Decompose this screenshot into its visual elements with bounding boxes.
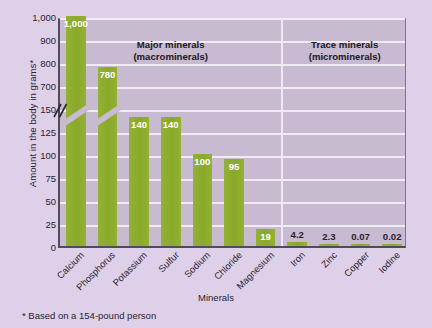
bar-rect: [193, 154, 213, 246]
bar-chloride[interactable]: 95: [224, 16, 244, 246]
bar-magnesium[interactable]: 19: [256, 16, 276, 246]
bar-rect: [129, 117, 149, 246]
bar-value-label: 0.07: [351, 232, 370, 242]
y-tick-label: 50: [8, 197, 56, 207]
bar-phosphorus[interactable]: 780: [98, 16, 118, 246]
bar-rect: [319, 244, 339, 247]
y-tick-label: 0: [8, 243, 56, 253]
y-tick-label: 150: [8, 105, 56, 115]
bar-rect: [66, 16, 86, 246]
bar-value-label: 1,000: [64, 19, 88, 29]
bar-rect: [351, 244, 371, 247]
bar-value-label: 95: [229, 162, 240, 172]
bar-value-label: 100: [194, 157, 210, 167]
x-tick-label-iron: Iron: [289, 250, 307, 268]
x-tick-label-sodium: Sodium: [183, 250, 213, 280]
bar-rect: [161, 117, 181, 246]
y-tick-label: 25: [8, 220, 56, 230]
y-tick-label: 100: [8, 151, 56, 161]
x-axis-title: Minerals: [0, 292, 432, 303]
bar-value-label: 2.3: [322, 232, 335, 242]
bar-sulfur[interactable]: 140: [161, 16, 181, 246]
bar-potassium[interactable]: 140: [129, 16, 149, 246]
bar-rect: [382, 244, 402, 247]
bar-value-label: 140: [163, 120, 179, 130]
x-tick-label-sulfur: Sulfur: [156, 250, 180, 274]
bar-sodium[interactable]: 100: [193, 16, 213, 246]
bar-rect: [287, 242, 307, 246]
bar-value-label: 140: [131, 120, 147, 130]
x-tick-label-potassium: Potassium: [111, 250, 149, 288]
x-tick-label-zinc: Zinc: [319, 250, 339, 270]
bar-iron[interactable]: 4.2: [287, 16, 307, 246]
y-tick-label: 125: [8, 128, 56, 138]
bar-value-label: 19: [260, 232, 271, 242]
bars-layer: 1,00078014014010095194.22.30.070.02: [60, 19, 405, 246]
bar-calcium[interactable]: 1,000: [66, 16, 86, 246]
bar-value-label: 780: [99, 70, 115, 80]
bar-copper[interactable]: 0.07: [351, 16, 371, 246]
plot-area: Major minerals (macrominerals) Trace min…: [58, 18, 406, 248]
y-axis-tick-labels: 02550751001251507008009001,000: [8, 18, 56, 248]
chart-footnote: * Based on a 154-pound person: [22, 310, 156, 321]
x-tick-label-copper: Copper: [342, 250, 371, 279]
bar-rect: [224, 159, 244, 246]
bar-rect: [98, 67, 118, 246]
y-tick-label: 75: [8, 174, 56, 184]
bar-zinc[interactable]: 2.3: [319, 16, 339, 246]
bar-value-label: 4.2: [291, 230, 304, 240]
y-tick-label: 1,000: [8, 13, 56, 23]
y-tick-label: 700: [8, 82, 56, 92]
bar-iodine[interactable]: 0.02: [382, 16, 402, 246]
minerals-bar-chart: Amount in the body in grams* 02550751001…: [0, 0, 432, 328]
y-tick-label: 800: [8, 59, 56, 69]
x-tick-label-iodine: Iodine: [377, 250, 402, 275]
y-tick-label: 900: [8, 36, 56, 46]
bar-value-label: 0.02: [383, 232, 402, 242]
